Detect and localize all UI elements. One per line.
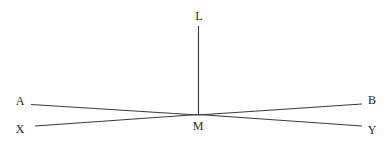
label-l: L <box>195 9 202 23</box>
label-x: X <box>16 122 25 136</box>
segment-my <box>198 115 362 127</box>
label-y: Y <box>368 123 377 137</box>
label-m: M <box>193 119 204 133</box>
label-a: A <box>16 94 25 108</box>
segment-am <box>31 105 198 116</box>
segment-xm <box>35 115 198 127</box>
geometry-diagram: L A X M B Y <box>0 0 392 144</box>
segment-mb <box>198 104 362 115</box>
label-b: B <box>368 93 376 107</box>
